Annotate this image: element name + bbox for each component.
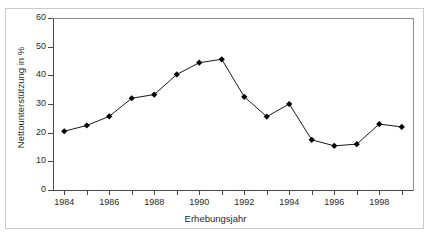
y-axis-title: Nettounterstützung in % [15,18,26,178]
series-polyline [64,59,402,146]
chart-figure: 0102030405060 19841986198819901992199419… [0,0,431,236]
data-series-line [0,0,431,236]
data-point-marker [219,56,225,62]
data-point-marker [61,128,67,134]
data-point-marker [196,60,202,66]
data-point-marker [399,124,405,130]
x-axis-title: Erhebungsjahr [0,213,431,224]
data-point-marker [309,137,315,143]
data-point-marker [84,122,90,128]
data-point-marker [286,101,292,107]
data-point-marker [331,143,337,149]
series-markers [61,56,405,149]
